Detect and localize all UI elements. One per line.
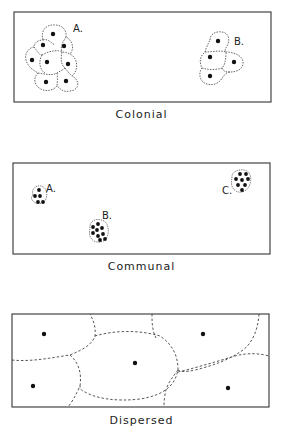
communal-cluster-a (32, 186, 47, 204)
communal-caption: Communal (0, 260, 283, 273)
colonial-caption: Colonial (0, 108, 283, 121)
colonial-frame (14, 12, 271, 102)
dispersed-caption: Dispersed (0, 414, 283, 427)
communal-label-c: C. (222, 185, 232, 196)
communal-cluster-c (231, 170, 250, 192)
dispersed-boundaries (12, 314, 269, 407)
dispersed-dwellings (31, 332, 230, 390)
colonial-label-b: B. (234, 36, 244, 47)
communal-cluster-b (89, 219, 108, 242)
communal-label-b: B. (102, 210, 112, 221)
communal-label-a: A. (46, 183, 56, 194)
settlement-patterns-diagram (0, 0, 283, 436)
dispersed-frame (12, 314, 269, 407)
communal-frame (13, 163, 270, 254)
colonial-label-a: A. (73, 23, 83, 34)
